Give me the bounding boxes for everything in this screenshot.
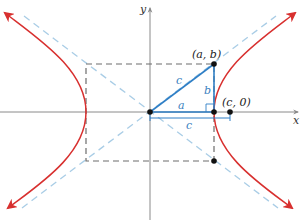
hyperbola-diagram: x y c b a c (a, b) (c, 0) <box>0 0 304 220</box>
hyperbola-left-branch <box>5 13 86 208</box>
label-point-a-b: (a, b) <box>192 48 221 61</box>
origin-point <box>147 109 153 115</box>
point-a-minus-b <box>211 158 217 164</box>
focus-point <box>227 109 233 115</box>
hyperbola-right-branch <box>214 13 295 208</box>
vertex-point <box>211 109 217 115</box>
label-focus-c-0: (c, 0) <box>222 96 251 109</box>
label-leg-b: b <box>204 84 211 97</box>
label-leg-a: a <box>178 99 185 112</box>
y-axis-label: y <box>139 3 147 16</box>
label-focal-c: c <box>186 119 192 132</box>
point-a-b <box>211 61 217 67</box>
label-hypotenuse-c: c <box>176 74 182 87</box>
x-axis-label: x <box>293 114 300 127</box>
